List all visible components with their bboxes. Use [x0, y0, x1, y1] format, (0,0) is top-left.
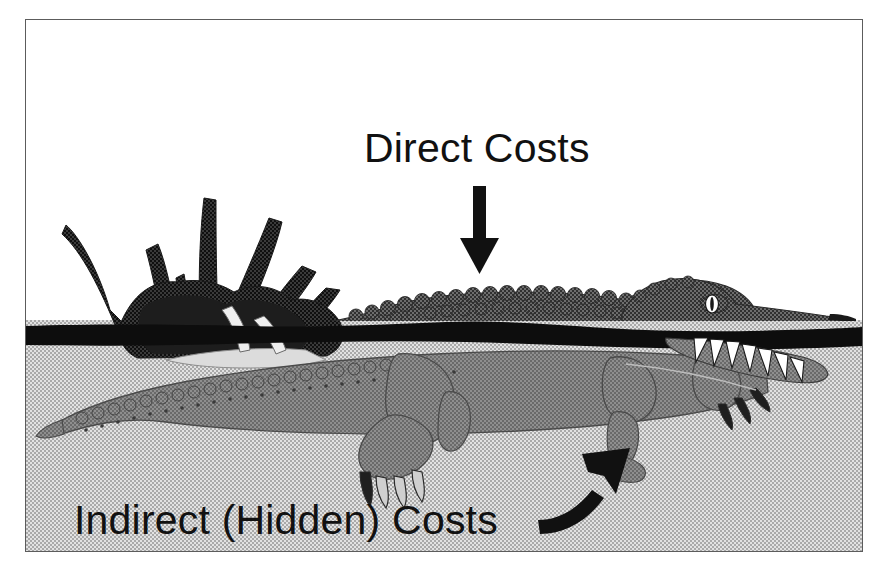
direct-costs-label: Direct Costs	[364, 126, 590, 170]
figure-frame: Direct Costs Indirect (Hidden) Costs	[25, 19, 863, 552]
alligator-scene	[26, 20, 862, 551]
indirect-costs-label: Indirect (Hidden) Costs	[74, 498, 498, 542]
figure-canvas: Direct Costs Indirect (Hidden) Costs	[0, 0, 886, 568]
alligator-eye	[706, 295, 719, 313]
